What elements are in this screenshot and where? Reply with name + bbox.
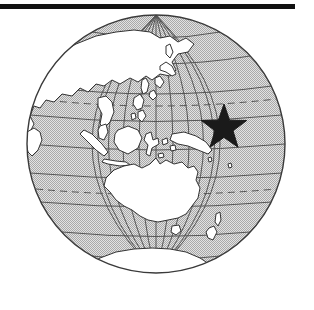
top-horizontal-rule bbox=[0, 4, 295, 9]
figure-root: Orthographic globe centred on the wester… bbox=[0, 0, 314, 310]
globe-svg bbox=[0, 14, 314, 310]
globe-container bbox=[0, 14, 314, 310]
